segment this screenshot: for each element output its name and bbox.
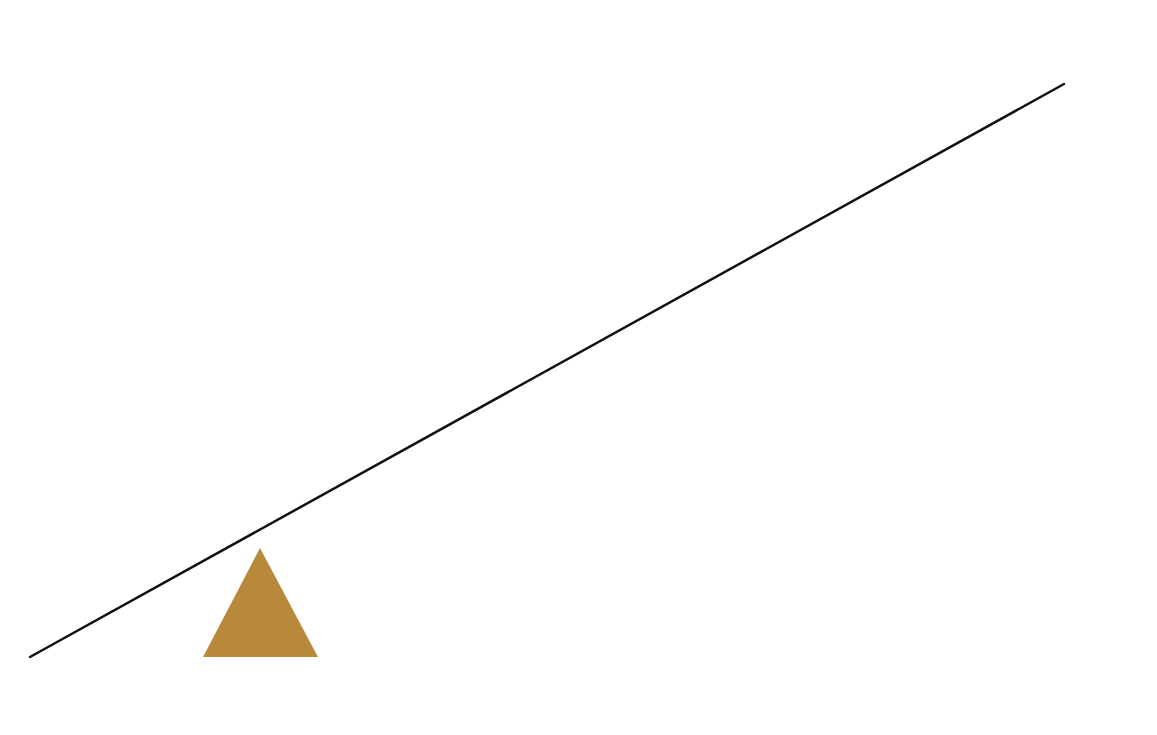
lever-diagram [0,0,1157,735]
fulcrum-triangle [203,548,318,657]
lever-beam [30,84,1064,657]
